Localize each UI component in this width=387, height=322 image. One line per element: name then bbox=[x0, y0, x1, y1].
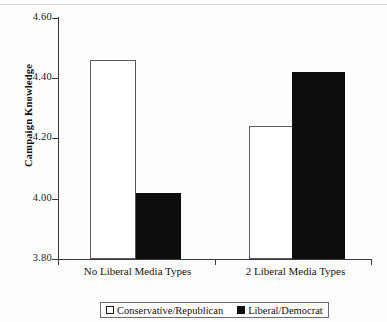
plot-area bbox=[58, 18, 372, 259]
bar-conservative-group1 bbox=[90, 60, 136, 259]
legend-item-liberal: Liberal/Democrat bbox=[237, 305, 323, 316]
scan-artifact-line bbox=[0, 4, 387, 5]
x-category-label-1: No Liberal Media Types bbox=[60, 265, 215, 277]
legend-item-conservative: Conservative/Republican bbox=[106, 305, 223, 316]
x-tick-mark bbox=[58, 259, 59, 265]
y-tick-label: 4.00 bbox=[8, 192, 52, 203]
y-tick-label: 3.80 bbox=[8, 252, 52, 263]
y-tick-label: 4.60 bbox=[8, 11, 52, 22]
legend-swatch-solid-icon bbox=[237, 306, 245, 314]
y-axis-title: Campaign Knowledge bbox=[23, 36, 34, 196]
bar-liberal-group1 bbox=[136, 193, 181, 259]
legend-label-conservative: Conservative/Republican bbox=[117, 305, 223, 316]
y-tick-label: 4.40 bbox=[8, 71, 52, 82]
bar-conservative-group2 bbox=[249, 126, 295, 259]
y-tick-label: 4.20 bbox=[8, 131, 52, 142]
bar-chart-figure: Campaign Knowledge 4.60 4.40 4.20 4.00 3… bbox=[0, 0, 387, 322]
legend-label-liberal: Liberal/Democrat bbox=[248, 305, 323, 316]
legend-swatch-open-icon bbox=[106, 306, 114, 314]
bar-liberal-group2 bbox=[292, 72, 345, 259]
x-category-label-2: 2 Liberal Media Types bbox=[218, 265, 373, 277]
legend: Conservative/Republican Liberal/Democrat bbox=[100, 302, 329, 318]
x-tick-mark bbox=[215, 259, 216, 265]
